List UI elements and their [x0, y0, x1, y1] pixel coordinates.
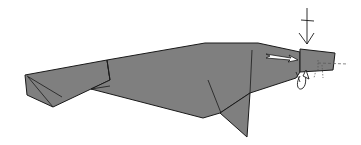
origami-diagram	[0, 0, 361, 145]
seal-diagram-svg	[0, 0, 361, 145]
tail-flap	[25, 60, 110, 107]
fold-down-arrow-icon	[299, 8, 314, 44]
seal-head	[300, 49, 335, 72]
